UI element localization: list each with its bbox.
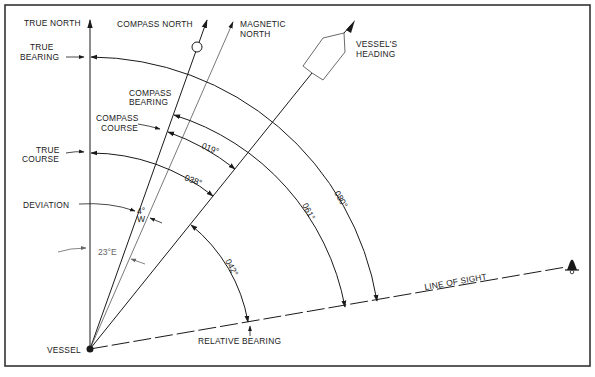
diagram-frame — [5, 5, 590, 366]
compass-bearing-label-line2: BEARING — [129, 97, 168, 107]
relative-bearing-arc — [191, 225, 248, 322]
magnetic-north-label-line1: MAGNETIC — [240, 19, 286, 29]
compass-course-label-line2: COURSE — [101, 123, 138, 133]
magnetic-north-line — [90, 22, 233, 349]
compass-north-line — [90, 20, 207, 349]
line-of-sight — [90, 267, 566, 349]
deviation-label: DEVIATION — [23, 200, 69, 210]
compass-north-label: COMPASS NORTH — [117, 19, 193, 29]
true-course-label-line2: COURSE — [22, 154, 59, 164]
navigation-bearing-diagram: TRUE NORTH COMPASS NORTH MAGNETIC NORTH … — [0, 0, 595, 377]
variation-value: 23°E — [98, 247, 117, 257]
bell-buoy-icon — [565, 260, 579, 274]
magnetic-north-label-line2: NORTH — [240, 29, 271, 39]
line-of-sight-label: LINE OF SIGHT — [424, 271, 488, 292]
compass-bearing-value: 061° — [300, 201, 317, 221]
true-north-label: TRUE NORTH — [24, 18, 81, 28]
true-bearing-label-line1: TRUE — [30, 42, 54, 52]
true-course-value: 038° — [183, 172, 203, 187]
vessel-label: VESSEL — [47, 345, 81, 355]
true-bearing-label-line2: BEARING — [20, 52, 59, 62]
relative-bearing-label: RELATIVE BEARING — [198, 336, 281, 346]
compass-north-circle-icon — [192, 42, 202, 52]
true-bearing-value: 080° — [332, 189, 350, 209]
vessels-heading-label-line1: VESSEL'S — [356, 39, 398, 49]
vessel-point — [87, 346, 94, 353]
deviation-direction: W — [137, 214, 146, 224]
compass-course-label-line1: COMPASS — [96, 113, 139, 123]
relative-bearing-value: 042° — [223, 257, 240, 277]
compass-bearing-arc — [174, 115, 345, 307]
vessels-heading-label-line2: HEADING — [356, 49, 396, 59]
vessel-heading-icon — [303, 20, 355, 80]
compass-course-value: 019° — [200, 141, 220, 157]
